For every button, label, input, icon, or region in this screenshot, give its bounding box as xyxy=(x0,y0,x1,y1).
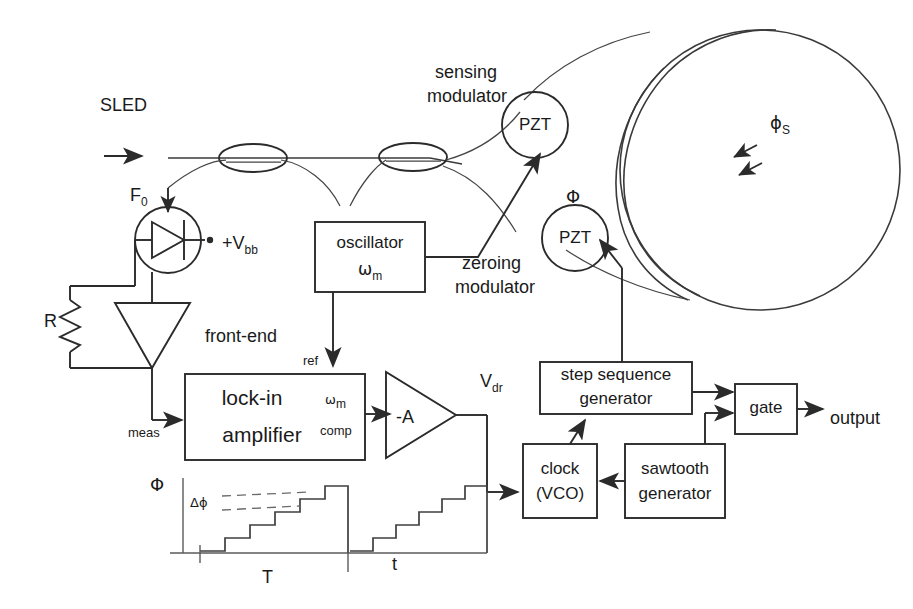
sled-label: SLED xyxy=(100,95,147,115)
zeroing-modulator-label-line2: modulator xyxy=(455,277,535,297)
block-step-sequence-generator[interactable]: step sequence generator xyxy=(540,362,692,414)
inset-delta-phi-label: Δϕ xyxy=(190,495,207,510)
zeroing-modulator-pzt: PZT xyxy=(542,205,608,271)
inset-x-axis-label: t xyxy=(392,554,397,574)
inset-staircase-period-2 xyxy=(350,486,487,553)
front-end-amplifier xyxy=(60,240,190,420)
feedback-resistor-label: R xyxy=(44,311,57,331)
block-sawtooth-generator[interactable]: sawtooth generator xyxy=(625,444,725,518)
fog-schematic: SLED F0 +Vbb xyxy=(0,0,913,609)
inset-delta-phi-upper xyxy=(222,492,310,496)
inset-y-axis-label: Φ xyxy=(150,474,164,495)
inverting-amplifier: -A xyxy=(386,372,456,458)
fiber-coupler-1 xyxy=(168,144,340,206)
optical-power-label: F0 xyxy=(130,185,148,209)
sled-source: SLED xyxy=(100,95,147,156)
wire-stepseq-to-zeroing-pzt xyxy=(600,240,622,362)
gate-label: gate xyxy=(749,398,782,417)
wire-clock-to-stepseq xyxy=(570,420,585,444)
meas-label: meas xyxy=(128,425,160,440)
sensing-modulator-label-line2: modulator xyxy=(427,86,507,106)
diagram-canvas: SLED F0 +Vbb xyxy=(0,0,913,609)
sagnac-phase-indicator: ϕS xyxy=(734,112,790,175)
phi-modulator-label: Φ xyxy=(566,186,580,207)
inset-delta-phi-lower xyxy=(222,506,300,510)
zeroing-modulator-label-line1: zeroing xyxy=(462,253,521,273)
wire-drive-bus xyxy=(456,415,518,492)
lockin-label-line2: amplifier xyxy=(222,423,301,446)
front-end-label: front-end xyxy=(205,326,277,346)
lockin-comp-label: comp xyxy=(320,423,352,438)
sensing-modulator-label-line1: sensing xyxy=(435,62,497,82)
block-oscillator[interactable]: oscillator ωm xyxy=(315,222,425,292)
pzt-zeroing-label: PZT xyxy=(559,228,591,247)
drive-voltage-label: Vdr xyxy=(480,371,503,395)
clock-label-line2: (VCO) xyxy=(536,484,584,503)
pzt-sensing-label: PZT xyxy=(519,115,551,134)
ref-label: ref xyxy=(303,353,319,368)
sensing-modulator-pzt: PZT xyxy=(502,92,568,158)
clock-label-line1: clock xyxy=(541,459,580,478)
step-seq-label-line2: generator xyxy=(580,389,653,408)
wire-sawtooth-to-gate xyxy=(705,413,733,444)
output-label: output xyxy=(830,408,880,428)
inset-phase-waveform: Φ t T Δϕ xyxy=(150,474,487,587)
lockin-label-line1: lock-in xyxy=(222,386,283,409)
block-lockin-amplifier[interactable]: lock-in amplifier ωm comp xyxy=(185,374,365,460)
oscillator-label-line1: oscillator xyxy=(336,233,403,252)
bias-voltage-label: +Vbb xyxy=(222,233,258,257)
sagnac-phase-label: ϕS xyxy=(770,112,790,137)
gain-label: -A xyxy=(396,407,414,427)
inset-period-label: T xyxy=(262,567,273,587)
step-seq-label-line1: step sequence xyxy=(561,365,672,384)
fiber-sensing-coil xyxy=(616,30,900,310)
fiber-coupler-2 xyxy=(350,143,447,206)
sawtooth-label-line2: generator xyxy=(639,484,712,503)
wire-oscillator-to-sensing-pzt xyxy=(425,154,540,257)
block-gate[interactable]: gate xyxy=(735,384,797,434)
block-clock-vco[interactable]: clock (VCO) xyxy=(523,444,597,518)
sawtooth-label-line1: sawtooth xyxy=(641,459,709,478)
